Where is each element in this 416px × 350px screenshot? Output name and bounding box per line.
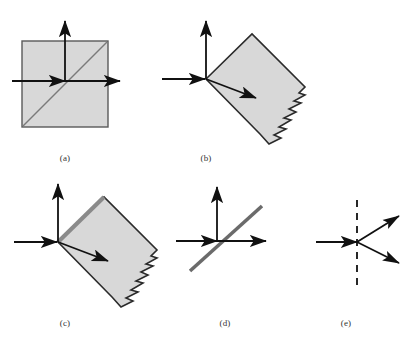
figure-container: (a) (b) (c) (d) (e) xyxy=(0,0,416,350)
panel-label-d: (d) xyxy=(205,318,245,328)
panel-label-c: (c) xyxy=(45,318,85,328)
panel-a xyxy=(12,21,120,127)
panel-label-e: (e) xyxy=(326,318,366,328)
panel-e-transmitted-upper-arrow xyxy=(357,216,399,242)
panel-c-torn-block xyxy=(58,197,157,307)
panel-e xyxy=(316,200,399,285)
panel-b-torn-block xyxy=(206,34,305,144)
panel-d-gray-line xyxy=(190,206,262,271)
panel-b xyxy=(162,21,305,144)
physics-wave-diagram xyxy=(0,0,416,350)
panel-d xyxy=(176,187,266,271)
panel-e-transmitted-lower-arrow xyxy=(357,242,399,263)
panel-label-b: (b) xyxy=(186,153,226,163)
panel-label-a: (a) xyxy=(45,153,85,163)
panel-c xyxy=(14,184,157,307)
